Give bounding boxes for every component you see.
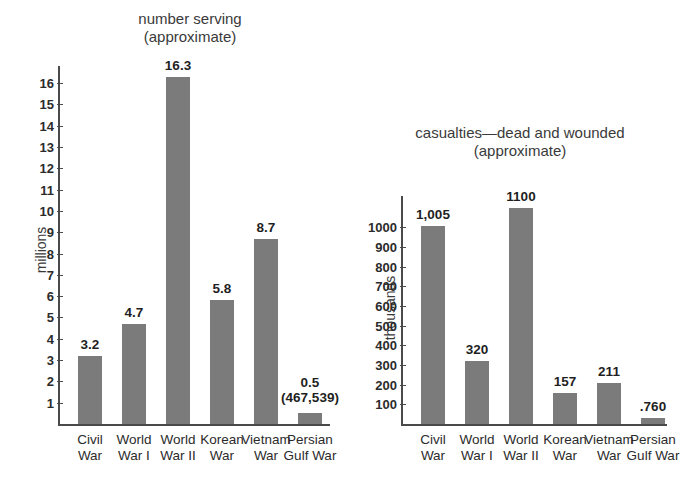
chart-title-line1: casualties—dead and wounded: [415, 124, 624, 141]
y-axis-tick-label: 5: [34, 310, 54, 325]
chart-title-line1: number serving: [138, 10, 241, 27]
category-line2: War II: [160, 448, 196, 464]
bar-value-secondary: (467,539): [281, 390, 339, 405]
bar-value-primary: 1,005: [416, 207, 450, 222]
x-axis-line: [401, 424, 667, 426]
plot-area-number-serving: 12345678910111213141516 3.24.716.35.88.7…: [58, 66, 343, 426]
bar-value-label: 5.8: [213, 281, 232, 296]
bar-value-primary: 3.2: [81, 337, 100, 352]
y-axis-tick: [57, 360, 63, 361]
bar: [210, 300, 234, 424]
y-axis-tick: [57, 190, 63, 191]
y-axis-tick-label: 800: [363, 259, 397, 274]
bar-value-primary: 8.7: [257, 220, 276, 235]
category-line1: Korean: [543, 432, 587, 447]
bar-value-label: 211: [598, 364, 620, 379]
y-axis-tick-label: 10: [34, 203, 54, 218]
x-axis-category-label: WorldWar II: [160, 432, 196, 464]
y-axis-tick: [57, 254, 63, 255]
y-axis-tick-label: 9: [34, 225, 54, 240]
category-line2: War I: [459, 448, 494, 464]
bar-value-label: 3.2: [81, 337, 100, 352]
y-axis-tick-label: 8: [34, 246, 54, 261]
bar-value-primary: 320: [466, 342, 489, 357]
bar: [509, 208, 533, 424]
x-axis-category-label: CivilWar: [420, 432, 446, 464]
y-axis-tick-label: 600: [363, 299, 397, 314]
y-axis-tick-label: 400: [363, 338, 397, 353]
category-line1: Civil: [420, 432, 446, 447]
bar-value-label: 8.7: [257, 220, 276, 235]
bar: [298, 413, 322, 424]
y-axis-tick: [57, 339, 63, 340]
chart-subtitle: (approximate): [385, 142, 655, 160]
y-axis-tick: [400, 404, 406, 405]
bar-value-primary: 157: [554, 374, 577, 389]
bar: [78, 356, 102, 424]
y-axis-tick-label: 3: [34, 353, 54, 368]
category-line1: Civil: [77, 432, 103, 447]
bar-value-primary: 211: [598, 364, 620, 379]
y-axis-tick-label: 100: [363, 397, 397, 412]
bar-value-primary: 16.3: [165, 58, 191, 73]
bar-value-primary: 5.8: [213, 281, 232, 296]
y-axis-tick-label: 1: [34, 395, 54, 410]
y-axis-tick-label: 200: [363, 377, 397, 392]
chart-title-casualties: casualties—dead and wounded (approximate…: [385, 124, 655, 160]
bar-value-primary: .760: [640, 399, 666, 414]
y-axis-tick-label: 14: [34, 118, 54, 133]
bar-value-label: 4.7: [125, 305, 144, 320]
bar-value-label: 1,005: [416, 207, 450, 222]
bar: [254, 239, 278, 424]
bar-value-primary: 1100: [506, 189, 535, 204]
y-axis-tick-label: 13: [34, 139, 54, 154]
category-line2: Gulf War: [284, 448, 337, 464]
category-line1: World: [459, 432, 494, 447]
y-axis-tick: [57, 104, 63, 105]
y-axis-tick-label: 16: [34, 76, 54, 91]
bar: [553, 393, 577, 424]
y-axis-tick: [57, 126, 63, 127]
bar-value-label: 320: [466, 342, 489, 357]
category-line1: Persian: [287, 432, 333, 447]
bar: [122, 324, 146, 424]
category-line1: Persian: [630, 432, 676, 447]
y-axis-tick-label: 6: [34, 289, 54, 304]
chart-number-serving: number serving (approximate) millions 12…: [0, 0, 350, 487]
category-line2: War: [543, 448, 587, 464]
y-axis-tick-label: 700: [363, 279, 397, 294]
category-line2: War: [420, 448, 446, 464]
category-line2: War: [77, 448, 103, 464]
y-axis-tick-label: 300: [363, 358, 397, 373]
x-axis-category-label: CivilWar: [77, 432, 103, 464]
bar: [465, 361, 489, 424]
y-axis-tick-label: 500: [363, 318, 397, 333]
bar: [597, 383, 621, 424]
y-axis-tick: [57, 381, 63, 382]
y-axis-tick-label: 900: [363, 240, 397, 255]
y-axis-tick-label: 12: [34, 161, 54, 176]
y-axis-tick: [400, 227, 406, 228]
category-line1: World: [116, 432, 151, 447]
x-axis-category-label: KoreanWar: [543, 432, 587, 464]
bar-value-label: 157: [554, 374, 577, 389]
bar-value-label: 1100: [506, 189, 535, 204]
y-axis-tick-label: 1000: [363, 220, 397, 235]
x-axis-line: [58, 424, 330, 426]
chart-casualties: casualties—dead and wounded (approximate…: [350, 0, 687, 487]
y-axis-tick: [400, 365, 406, 366]
category-line2: War: [200, 448, 244, 464]
y-axis-tick: [57, 403, 63, 404]
y-axis-tick: [400, 306, 406, 307]
category-line2: Gulf War: [627, 448, 680, 464]
y-axis-tick: [57, 211, 63, 212]
category-line2: War II: [503, 448, 539, 464]
y-axis-tick: [400, 286, 406, 287]
bar-value-label: 16.3: [165, 58, 191, 73]
bar: [166, 77, 190, 424]
chart-title-number-serving: number serving (approximate): [95, 10, 285, 46]
y-axis-tick: [400, 247, 406, 248]
y-axis-tick: [400, 267, 406, 268]
y-axis-tick-label: 15: [34, 97, 54, 112]
bar-value-primary: 4.7: [125, 305, 144, 320]
